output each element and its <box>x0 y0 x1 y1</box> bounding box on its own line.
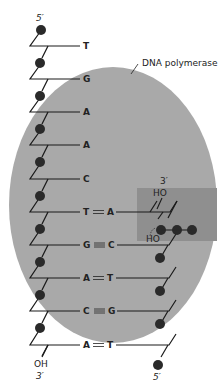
svg-text:A: A <box>107 207 114 217</box>
svg-text:T: T <box>107 273 114 283</box>
svg-text:C: C <box>83 306 90 316</box>
svg-text:G: G <box>108 306 115 316</box>
incoming-triphosphate <box>156 225 197 235</box>
new-strand-ho-label: HO <box>153 188 167 198</box>
svg-text:T: T <box>83 41 90 51</box>
template-3-prime-bond <box>42 345 48 356</box>
svg-text:T: T <box>107 340 114 350</box>
new-strand-3-prime-label: 3′ <box>160 176 168 186</box>
new-strand-5-prime-label: 5′ <box>153 372 161 382</box>
template-oh-label: OH <box>34 359 48 369</box>
svg-text:A: A <box>83 340 90 350</box>
template-5-prime-label: 5′ <box>36 13 44 23</box>
svg-text:T: T <box>83 207 90 217</box>
enzyme-label: DNA polymerase <box>142 58 218 68</box>
svg-text:A: A <box>83 140 90 150</box>
svg-text:C: C <box>83 174 90 184</box>
svg-text:A: A <box>83 273 90 283</box>
template-3-prime-label: 3′ <box>36 371 44 381</box>
svg-text:G: G <box>83 240 90 250</box>
svg-text:G: G <box>83 74 90 84</box>
dna-polymerase-diagram: DNA polymerase 5′ <box>0 0 223 391</box>
svg-text:C: C <box>108 240 115 250</box>
svg-text:A: A <box>83 107 90 117</box>
incoming-ho-label: HO <box>146 234 160 244</box>
